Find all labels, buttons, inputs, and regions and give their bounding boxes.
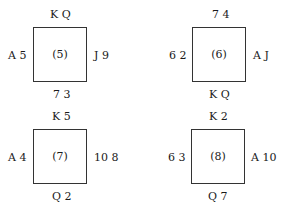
diagram-label: (7) [52, 150, 68, 163]
table-box: (7) [33, 129, 87, 184]
south-hand: 7 3 [53, 89, 71, 100]
bridge-diagram-7: K 5 (7) A 4 10 8 Q 2 [0, 105, 140, 209]
north-hand: K Q [50, 9, 71, 20]
west-hand: 6 3 [168, 152, 186, 163]
east-hand: 10 8 [94, 152, 119, 163]
bridge-diagram-8: K 2 (8) 6 3 A 10 Q 7 [140, 105, 281, 209]
north-hand: K 2 [209, 111, 228, 122]
table-box: (8) [191, 129, 245, 184]
bridge-diagram-6: 7 4 (6) 6 2 A J K Q [140, 0, 281, 105]
south-hand: K Q [209, 89, 230, 100]
table-box: (6) [192, 27, 246, 82]
diagram-label: (5) [52, 48, 68, 61]
east-hand: A J [253, 50, 269, 61]
table-box: (5) [33, 27, 87, 82]
west-hand: A 4 [8, 152, 26, 163]
north-hand: 7 4 [212, 9, 230, 20]
east-hand: J 9 [94, 50, 109, 61]
diagram-label: (6) [211, 48, 227, 61]
north-hand: K 5 [52, 111, 71, 122]
east-hand: A 10 [251, 152, 276, 163]
west-hand: A 5 [8, 50, 26, 61]
south-hand: Q 7 [208, 191, 228, 202]
diagram-label: (8) [210, 150, 226, 163]
south-hand: Q 2 [52, 191, 72, 202]
west-hand: 6 2 [169, 50, 187, 61]
bridge-diagram-5: K Q (5) A 5 J 9 7 3 [0, 0, 140, 105]
